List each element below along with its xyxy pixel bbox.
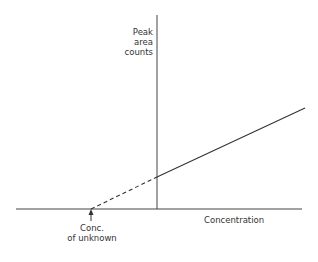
calibration-diagram bbox=[0, 0, 318, 262]
unknown-concentration-annotation: Conc. of unknown bbox=[66, 223, 118, 243]
annotation-line-2: of unknown bbox=[66, 233, 118, 243]
y-label-line-1: Peak bbox=[113, 27, 153, 37]
y-label-line-2: area bbox=[113, 37, 153, 47]
calibration-line bbox=[157, 108, 305, 177]
x-axis-label: Concentration bbox=[204, 215, 264, 225]
arrow-head-icon bbox=[89, 209, 94, 215]
annotation-line-1: Conc. bbox=[66, 223, 118, 233]
y-axis-label: Peak area counts bbox=[113, 27, 153, 57]
y-label-line-3: counts bbox=[113, 47, 153, 57]
extrapolation-dashed-line bbox=[91, 177, 157, 209]
